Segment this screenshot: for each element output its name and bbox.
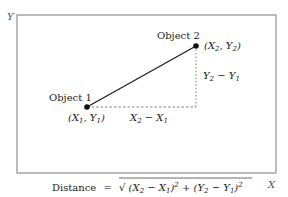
dx-label: X2 − X1: [130, 113, 168, 125]
connecting-line: [87, 46, 196, 107]
dy-label: Y2 − Y1: [203, 71, 240, 83]
object2-label: Object 2: [157, 31, 200, 41]
x-axis-label: X: [268, 180, 275, 190]
object1-coord: (X1, Y1): [68, 113, 105, 125]
distance-diagram: [0, 0, 288, 197]
formula-rhs: √ (X2 − X1)2 + (Y2 − Y1)2: [119, 182, 243, 193]
formula-lhs: Distance: [52, 182, 96, 193]
object2-dot: [193, 43, 199, 49]
object1-label: Object 1: [49, 93, 92, 103]
object1-dot: [84, 104, 90, 110]
object2-coord: (X2, Y2): [204, 41, 241, 53]
y-axis-label: Y: [7, 12, 14, 22]
distance-formula: Distance = √ (X2 − X1)2 + (Y2 − Y1)2: [52, 182, 243, 195]
formula-equals: =: [103, 182, 111, 193]
